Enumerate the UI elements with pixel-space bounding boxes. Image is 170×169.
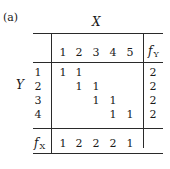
row-header: 1 xyxy=(35,67,42,78)
right-divider xyxy=(143,33,144,148)
column-variable-label: X xyxy=(92,16,101,28)
bottom-rule xyxy=(33,153,163,154)
table-cell: 1 xyxy=(110,95,117,106)
row-marginal: 2 xyxy=(150,67,157,78)
table-cell: 1 xyxy=(60,67,67,78)
left-divider xyxy=(51,33,52,154)
column-header: 4 xyxy=(110,47,117,58)
table-cell: 1 xyxy=(93,81,100,92)
table-cell: 1 xyxy=(76,67,83,78)
marginal-fx-header: fX xyxy=(34,137,45,151)
row-variable-label: Y xyxy=(16,79,24,91)
row-marginal: 2 xyxy=(150,81,157,92)
column-header: 3 xyxy=(93,47,100,58)
row-header: 2 xyxy=(35,81,42,92)
marginal-fy-header: fY xyxy=(148,45,159,59)
row-header: 4 xyxy=(35,109,42,120)
column-marginal: 2 xyxy=(110,138,117,149)
column-header: 5 xyxy=(127,47,134,58)
figure-label: (a) xyxy=(3,12,18,23)
column-header: 2 xyxy=(76,47,83,58)
table-cell: 1 xyxy=(127,109,134,120)
column-marginal: 2 xyxy=(93,138,100,149)
table-cell: 1 xyxy=(110,109,117,120)
table-cell: 1 xyxy=(76,81,83,92)
column-marginal: 2 xyxy=(76,138,83,149)
column-header: 1 xyxy=(60,47,67,58)
row-header: 3 xyxy=(35,95,42,106)
column-marginal: 1 xyxy=(127,138,134,149)
column-marginal: 1 xyxy=(60,138,67,149)
row-marginal: 2 xyxy=(150,109,157,120)
table-cell: 1 xyxy=(93,95,100,106)
row-marginal: 2 xyxy=(150,95,157,106)
